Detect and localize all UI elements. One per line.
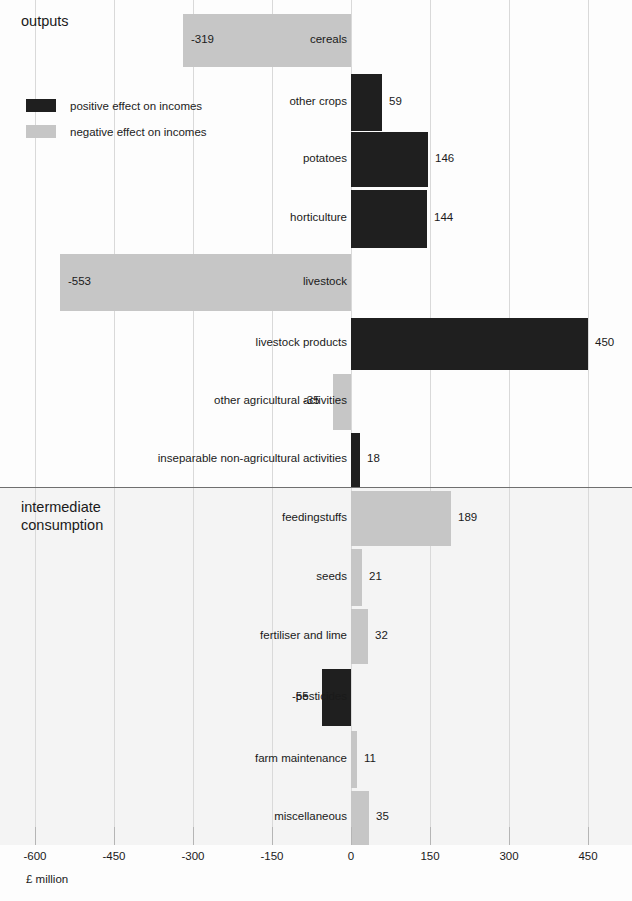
tick-mark-300: [509, 827, 510, 845]
plot-area: outputs intermediate consumption positiv…: [0, 0, 632, 845]
bar-value-label: -553: [68, 275, 91, 287]
bar-horticulture[interactable]: [351, 190, 427, 248]
section-divider: [0, 487, 632, 488]
bar-fertiliser-and-lime[interactable]: [351, 609, 368, 664]
bar-row[interactable]: other crops59: [0, 74, 632, 131]
bar-potatoes[interactable]: [351, 132, 428, 187]
bar-value-label: 450: [595, 336, 614, 348]
bar-row[interactable]: other agricultural activities-35: [0, 374, 632, 430]
bar-category-label: seeds: [316, 570, 347, 582]
bar-value-label: 146: [435, 152, 454, 164]
bar-category-label: potatoes: [303, 152, 347, 164]
tick-label--150: -150: [260, 850, 283, 862]
bar-value-label: 189: [458, 511, 477, 523]
bar-category-label: other agricultural activities: [214, 394, 347, 406]
bar-row[interactable]: farm maintenance11: [0, 731, 632, 788]
bar-value-label: 35: [376, 810, 389, 822]
tick-label--300: -300: [181, 850, 204, 862]
bar-row[interactable]: horticulture144: [0, 190, 632, 248]
bar-chart: outputs intermediate consumption positiv…: [0, 0, 632, 901]
bar-category-label: farm maintenance: [255, 752, 347, 764]
bar-value-label: 32: [375, 629, 388, 641]
bar-row[interactable]: cereals-319: [0, 14, 632, 67]
bar-category-label: horticulture: [290, 211, 347, 223]
tick-mark--300: [193, 827, 194, 845]
bar-value-label: 59: [389, 95, 402, 107]
bar-category-label: livestock products: [256, 336, 347, 348]
tick-label--600: -600: [23, 850, 46, 862]
tick-mark--150: [272, 827, 273, 845]
bar-row[interactable]: feedingstuffs189: [0, 491, 632, 546]
bar-value-label: 21: [369, 570, 382, 582]
tick-label-300: 300: [499, 850, 518, 862]
bar-row[interactable]: pesticides-55: [0, 669, 632, 726]
bar-category-label: livestock: [303, 275, 347, 287]
tick-mark--450: [114, 827, 115, 845]
bar-value-label: -55: [292, 690, 309, 702]
bar-category-label: other crops: [289, 95, 347, 107]
bar-row[interactable]: potatoes146: [0, 132, 632, 187]
bar-category-label: miscellaneous: [274, 810, 347, 822]
bar-value-label: 18: [367, 452, 380, 464]
bar-feedingstuffs[interactable]: [351, 491, 451, 546]
bar-row[interactable]: fertiliser and lime32: [0, 609, 632, 664]
bar-row[interactable]: livestock products450: [0, 318, 632, 370]
bar-value-label: 144: [434, 211, 453, 223]
bar-livestock-products[interactable]: [351, 318, 588, 370]
tick-label--450: -450: [102, 850, 125, 862]
bar-inseparable-non-agricultural-activities[interactable]: [351, 433, 360, 487]
bar-category-label: inseparable non-agricultural activities: [158, 452, 347, 464]
bar-value-label: -319: [191, 33, 214, 45]
bar-miscellaneous[interactable]: [351, 791, 369, 845]
tick-mark-450: [588, 827, 589, 845]
bar-seeds[interactable]: [351, 549, 362, 606]
bar-row[interactable]: inseparable non-agricultural activities1…: [0, 433, 632, 487]
tick-mark--600: [35, 827, 36, 845]
tick-label-150: 150: [420, 850, 439, 862]
bar-value-label: 11: [364, 752, 376, 764]
bar-category-label: cereals: [310, 33, 347, 45]
bar-category-label: fertiliser and lime: [260, 629, 347, 641]
bar-value-label: -35: [303, 394, 320, 406]
tick-label-450: 450: [578, 850, 597, 862]
x-axis-unit-label: £ million: [26, 873, 68, 885]
bar-row[interactable]: livestock-553: [0, 254, 632, 311]
bar-farm-maintenance[interactable]: [351, 731, 357, 788]
bar-other-crops[interactable]: [351, 74, 382, 131]
bar-row[interactable]: miscellaneous35: [0, 791, 632, 845]
tick-mark-150: [430, 827, 431, 845]
tick-mark-0: [351, 827, 352, 845]
bar-category-label: feedingstuffs: [282, 511, 347, 523]
x-axis: -600-450-300-1500150300450 £ million: [0, 845, 632, 901]
bar-row[interactable]: seeds21: [0, 549, 632, 606]
tick-label-0: 0: [348, 850, 354, 862]
